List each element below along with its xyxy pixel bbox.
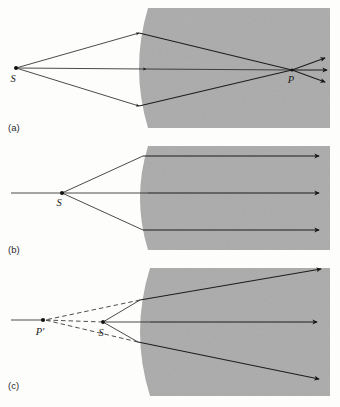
panel-a-image-point-dot [290, 68, 293, 71]
panel-a: S P (a) [8, 8, 330, 133]
panel-b: S (b) [8, 146, 330, 255]
panel-c-label: (c) [8, 380, 19, 391]
panel-c-dashed-upper-extension [45, 300, 140, 320]
panel-a-axial-incident-ray [16, 68, 146, 69]
panel-c-upper-incident-ray [103, 300, 140, 322]
panel-a-upper-incident-ray [16, 33, 139, 68]
panel-a-label: (a) [8, 122, 20, 133]
panel-c-lower-incident-ray [103, 322, 138, 342]
panel-b-label: (b) [8, 244, 20, 255]
figure-page: S P (a) S (b) [0, 0, 340, 407]
panel-c-virtual-image-dot [41, 318, 45, 322]
panel-b-source-dot [60, 191, 64, 195]
panel-b-medium-block [140, 146, 330, 250]
panel-b-upper-incident-ray [62, 156, 143, 193]
ray-diagram-svg: S P (a) S (b) [0, 0, 340, 407]
panel-b-source-label: S [56, 197, 62, 208]
panel-c-source-dot [101, 320, 105, 324]
panel-a-image-point-label: P [287, 74, 295, 85]
panel-a-source-dot [14, 66, 18, 70]
panel-a-source-label: S [10, 73, 16, 84]
panel-c-dashed-lower-extension [45, 320, 138, 342]
panel-a-medium-block [139, 8, 330, 128]
panel-b-lower-incident-ray [62, 193, 143, 230]
panel-c-virtual-image-label: P′ [35, 326, 45, 337]
panel-c: P′ S (c) [8, 268, 330, 396]
panel-c-source-label: S [98, 327, 104, 338]
panel-a-lower-incident-ray [16, 68, 139, 106]
panel-c-medium-block [140, 268, 330, 396]
